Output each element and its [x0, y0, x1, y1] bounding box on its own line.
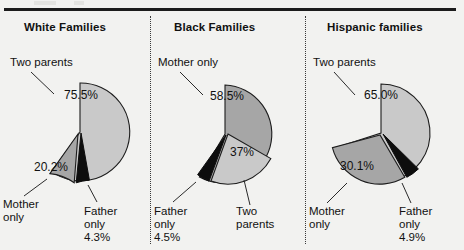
value-label-two-parents: 65.0% — [364, 89, 398, 103]
panel-black-families: Black Families Mother only 58.5% 37% Fat… — [152, 13, 305, 250]
leader-line-father-only — [173, 182, 196, 202]
value-label-two-parents: 75.5% — [64, 89, 98, 103]
top-horizontal-rule — [4, 8, 456, 11]
callout-mother-only: Mother only — [158, 56, 218, 70]
callout-two-parents: Two parents — [10, 56, 73, 70]
value-label-two-parents: 37% — [230, 146, 254, 160]
callout-father-only-line2: only — [154, 218, 175, 232]
value-label-mother-only: 58.5% — [210, 90, 244, 104]
leader-line-mother-only — [24, 179, 47, 196]
leader-line-two-parents — [31, 72, 54, 94]
callout-father-only-line1: Father — [84, 205, 117, 219]
callout-two-parents-line1: Two — [236, 205, 257, 219]
value-label-father-only: 4.3% — [84, 231, 110, 245]
callout-father-only-line1: Father — [399, 205, 432, 219]
leader-line-father-only — [402, 183, 411, 203]
panel-hispanic-families: Hispanic families Two parents 65.0% 30.1… — [307, 13, 464, 250]
value-label-mother-only: 30.1% — [340, 160, 374, 174]
value-label-mother-only: 20.2% — [34, 161, 68, 175]
scan-artifact — [34, 1, 56, 5]
scan-artifact — [74, 1, 84, 5]
value-label-father-only: 4.5% — [154, 231, 180, 245]
callout-mother-only-line1: Mother — [3, 198, 39, 212]
pie-chart-figure: White Families Two parents 75.5% 20.2% M… — [0, 0, 464, 250]
leader-line-mother-only — [327, 183, 347, 203]
callout-mother-only-line1: Mother — [309, 205, 345, 219]
leader-line-two-parents — [244, 180, 250, 205]
panel-white-families: White Families Two parents 75.5% 20.2% M… — [0, 13, 150, 250]
callout-father-only-line1: Father — [154, 205, 187, 219]
leader-line-two-parents — [334, 72, 355, 95]
value-label-father-only: 4.9% — [399, 231, 425, 245]
callout-father-only-line2: only — [399, 218, 420, 232]
leader-line-father-only — [88, 185, 97, 202]
leader-line-mother-only — [180, 72, 203, 95]
callout-father-only-line2: only — [84, 218, 105, 232]
callout-mother-only-line2: only — [3, 211, 24, 225]
wedge-mother-only — [50, 134, 78, 183]
callout-two-parents: Two parents — [313, 56, 376, 70]
callout-two-parents-line2: parents — [236, 218, 274, 232]
callout-mother-only-line2: only — [309, 218, 330, 232]
